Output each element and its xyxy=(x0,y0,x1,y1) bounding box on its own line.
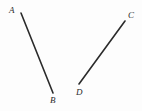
figure-vector-layer xyxy=(0,0,142,111)
point-label-a: A xyxy=(9,6,15,15)
point-label-d: D xyxy=(76,88,83,97)
line-segment-cd xyxy=(79,21,125,84)
point-label-b: B xyxy=(50,96,56,105)
point-label-c: C xyxy=(128,11,134,20)
geometry-figure: A B C D xyxy=(0,0,142,111)
line-segment-ab xyxy=(21,13,53,93)
